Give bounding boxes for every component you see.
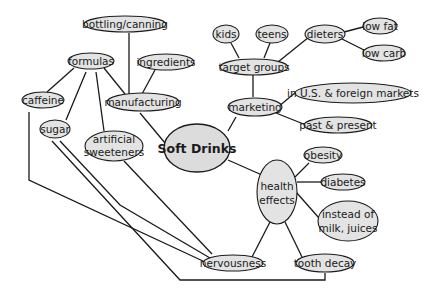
node-artificial-sweeteners[interactable]: artificial sweeteners <box>84 131 144 161</box>
node-label: in U.S. & foreign markets <box>287 87 419 99</box>
node-manufacturing[interactable]: manufacturing <box>104 93 181 111</box>
node-target-groups[interactable]: target groups <box>218 59 289 75</box>
node-ingredients[interactable]: ingredients <box>136 54 195 70</box>
node-label: kids <box>215 28 236 40</box>
node-label: low fat <box>362 20 398 32</box>
edge-manufacturing-formulas <box>104 68 125 94</box>
node-teens[interactable]: teens <box>256 25 288 43</box>
node-marketing[interactable]: marketing <box>228 98 282 116</box>
node-label: ingredients <box>136 56 195 68</box>
node-tooth-decay[interactable]: tooth decay <box>294 254 357 272</box>
edge-health-obesity <box>295 163 309 177</box>
node-label: effects <box>259 194 295 206</box>
edge-manufacturing-ingredients <box>142 70 155 94</box>
node-sugar[interactable]: sugar <box>40 120 70 138</box>
edge-artificial-nervousness <box>124 161 212 254</box>
node-caffeine[interactable]: caffeine <box>22 92 64 108</box>
node-label: past & present <box>299 119 376 131</box>
node-label: bottling/canning <box>82 18 168 30</box>
node-formulas[interactable]: formulas <box>68 53 114 69</box>
node-label: artificial <box>93 133 135 145</box>
node-diabetes[interactable]: diabetes <box>320 174 365 190</box>
node-label: manufacturing <box>104 96 181 108</box>
edge-target-groups-teens <box>264 43 270 58</box>
node-label: health <box>260 180 293 192</box>
edge-health-instead <box>296 192 319 218</box>
edge-center-marketing <box>228 117 236 131</box>
node-label: instead of <box>322 208 374 220</box>
edge-formulas-artificial <box>96 72 104 131</box>
node-soft-drinks[interactable]: Soft Drinks <box>158 124 237 172</box>
node-label: dieters <box>307 28 343 40</box>
node-label: sugar <box>40 123 70 135</box>
node-label: low carb <box>362 47 407 59</box>
edge-formulas-sugar <box>66 72 86 120</box>
node-label: Soft Drinks <box>158 141 237 156</box>
edge-health-tooth-decay <box>285 222 302 257</box>
node-label: sweeteners <box>84 146 144 158</box>
node-dieters[interactable]: dieters <box>305 25 345 43</box>
node-label: nervousness <box>200 257 266 269</box>
node-label: formulas <box>68 55 114 67</box>
node-label: teens <box>257 28 286 40</box>
node-low-fat[interactable]: low fat <box>362 18 398 34</box>
node-low-carb[interactable]: low carb <box>362 45 407 61</box>
nodes: Soft Drinks manufacturing bottling/canni… <box>22 16 419 272</box>
node-label: obesity <box>304 149 342 161</box>
node-label: milk, juices <box>318 222 377 234</box>
node-kids[interactable]: kids <box>213 25 239 43</box>
node-nervousness[interactable]: nervousness <box>200 255 266 271</box>
node-label: caffeine <box>22 94 64 106</box>
node-label: marketing <box>228 101 282 113</box>
edge-formulas-caffeine <box>47 68 74 92</box>
edge-center-manufacturing <box>140 113 165 143</box>
node-markets[interactable]: in U.S. & foreign markets <box>287 83 419 103</box>
node-label: target groups <box>218 61 289 73</box>
node-label: tooth decay <box>294 257 357 269</box>
node-obesity[interactable]: obesity <box>304 147 342 163</box>
edge-center-health <box>228 160 262 175</box>
edge-health-nervousness <box>252 222 270 257</box>
node-health-effects[interactable]: health effects <box>257 160 297 224</box>
concept-map: Soft Drinks manufacturing bottling/canni… <box>0 0 431 296</box>
node-bottling-canning[interactable]: bottling/canning <box>82 16 168 32</box>
node-label: diabetes <box>320 176 365 188</box>
node-past-present[interactable]: past & present <box>299 117 376 133</box>
edge-target-groups-kids <box>231 43 239 58</box>
node-instead-of-milk[interactable]: instead of milk, juices <box>318 201 378 241</box>
